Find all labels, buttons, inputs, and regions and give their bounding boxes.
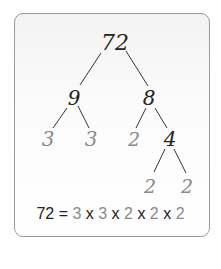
times-sign: x xyxy=(133,205,150,222)
composite-factor-node: 9 xyxy=(68,88,81,108)
equals-sign: = xyxy=(54,205,72,222)
tree-branch-line xyxy=(126,51,148,86)
prime-factor-node: 2 xyxy=(181,177,193,196)
factor: 2 xyxy=(150,205,159,222)
composite-factor-node: 8 xyxy=(143,88,156,108)
factor: 2 xyxy=(176,205,185,222)
prime-factor-node: 2 xyxy=(144,177,156,196)
tree-branch-line xyxy=(154,149,165,172)
factor: 2 xyxy=(124,205,133,222)
composite-factor-node: 4 xyxy=(164,129,177,149)
times-sign: x xyxy=(107,205,124,222)
times-sign: x xyxy=(81,205,98,222)
equation-lhs: 72 xyxy=(36,205,54,222)
prime-factor-node: 3 xyxy=(85,129,98,149)
composite-factor-node: 72 xyxy=(101,32,129,54)
prime-factor-node: 2 xyxy=(128,130,140,149)
tree-branch-line xyxy=(80,53,101,85)
prime-factor-node: 3 xyxy=(42,129,55,149)
tree-branch-line xyxy=(174,149,186,173)
factor: 3 xyxy=(98,205,107,222)
times-sign: x xyxy=(159,205,176,222)
tree-branch-line xyxy=(136,108,146,128)
tree-branch-line xyxy=(53,108,67,128)
prime-factorization-equation: 72 = 3 x 3 x 2 x 2 x 2 xyxy=(0,206,221,222)
tree-branch-line xyxy=(155,108,167,128)
